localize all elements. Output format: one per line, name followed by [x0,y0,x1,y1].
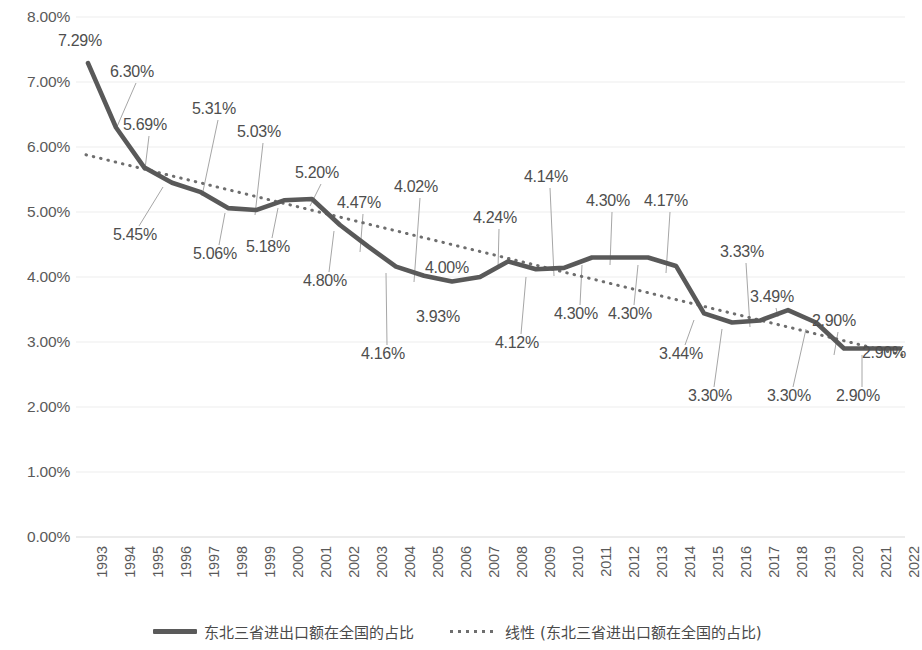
x-axis-tick-label: 2013 [654,546,670,578]
gridlines [76,17,905,537]
data-label-leader-line [219,213,225,245]
x-axis-tick-label: 2014 [682,546,698,578]
data-label: 4.30% [586,192,630,210]
data-label-leader-line [255,143,263,215]
data-label-leader-line [498,229,499,269]
dotted-line-swatch-icon [450,630,498,633]
x-axis-tick-label: 2019 [822,546,838,578]
data-label-leader-line [386,273,387,345]
legend-item-series[interactable]: 东北三省进出口额在全国的占比 [153,621,414,642]
x-axis-tick-label: 2003 [374,546,390,578]
x-axis-tick-label: 1993 [94,546,110,578]
data-label: 5.69% [123,116,167,134]
x-axis-tick-label: 2004 [402,546,418,578]
data-label-leader-line [329,231,334,272]
x-axis-tick-label: 2001 [318,546,334,578]
data-label: 2.90% [836,387,880,405]
data-label: 4.80% [303,272,347,290]
data-label: 5.18% [246,238,290,256]
data-label-leader-line [521,277,526,334]
x-axis-tick-label: 2020 [850,546,866,578]
x-axis-tick-label: 2011 [598,546,614,577]
x-axis-tick-label: 1999 [262,546,278,578]
data-label: 5.03% [237,123,281,141]
data-label: 5.20% [295,164,339,182]
legend-item-trendline[interactable]: 线性 (东北三省进出口额在全国的占比) [450,621,761,642]
data-label-leader-line [580,265,582,305]
data-label: 4.30% [608,305,652,323]
data-label: 4.47% [337,194,381,212]
x-axis-tick-label: 2021 [878,546,894,578]
data-label: 4.16% [361,345,405,363]
x-axis-tick-label: 2022 [906,546,922,578]
data-label: 4.02% [394,178,438,196]
x-axis-tick-label: 2010 [570,546,586,578]
solid-line-swatch-icon [153,629,197,634]
x-axis-tick-label: 1996 [178,546,194,578]
y-axis-tick-label: 3.00% [6,333,70,351]
data-label-leader-line [145,136,149,169]
data-label: 4.24% [473,209,517,227]
x-axis-tick-label: 2005 [430,546,446,578]
x-axis-tick-label: 2017 [766,546,782,578]
data-label: 4.12% [495,334,539,352]
data-label-leader-line [634,265,638,305]
y-axis: 8.00%7.00%6.00%5.00%4.00%3.00%2.00%1.00%… [0,0,70,560]
x-axis-tick-label: 2018 [794,546,810,578]
y-axis-tick-label: 7.00% [6,73,70,91]
x-axis-tick-label: 2008 [514,546,530,578]
data-label-leader-line [139,187,163,226]
data-label: 5.31% [192,100,236,118]
x-axis: 1993199419951996199719981999200020012002… [0,543,915,603]
data-label: 4.30% [554,305,598,323]
data-label-leader-line [360,214,363,252]
data-label: 4.00% [425,259,469,277]
x-axis-tick-label: 2002 [346,546,362,578]
x-axis-tick-label: 2016 [738,546,754,578]
data-label-leader-line [714,329,722,387]
x-axis-tick-label: 2015 [710,546,726,578]
data-label-leader-lines [116,83,862,387]
legend-label-trendline: 线性 (东北三省进出口额在全国的占比) [505,621,761,642]
data-label: 3.93% [416,308,460,326]
data-label: 3.30% [688,387,732,405]
data-label: 7.29% [58,32,102,50]
x-axis-tick-label: 1995 [150,546,166,578]
data-label: 3.44% [659,345,703,363]
data-label: 4.17% [644,192,688,210]
data-label: 3.30% [767,387,811,405]
data-label: 2.90% [862,344,906,362]
data-label: 3.49% [750,288,794,306]
x-axis-tick-label: 2007 [486,546,502,578]
data-label: 5.45% [113,226,157,244]
data-label-leader-line [793,329,806,387]
x-axis-tick-label: 1998 [234,546,250,578]
x-axis-tick-label: 2012 [626,546,642,578]
x-axis-tick-label: 2000 [290,546,306,578]
data-label: 5.06% [193,245,237,263]
data-label-leader-line [550,188,554,276]
y-axis-tick-label: 1.00% [6,463,70,481]
data-label: 6.30% [110,63,154,81]
chart-legend: 东北三省进出口额在全国的占比 线性 (东北三省进出口额在全国的占比) [0,612,915,650]
x-axis-tick-label: 2006 [458,546,474,578]
data-label: 4.14% [524,168,568,186]
legend-label-series: 东北三省进出口额在全国的占比 [204,621,414,642]
y-axis-tick-label: 8.00% [6,8,70,26]
data-label-leader-line [414,198,420,282]
data-label: 3.33% [720,243,764,261]
y-axis-tick-label: 4.00% [6,268,70,286]
x-axis-tick-label: 2009 [542,546,558,578]
y-axis-tick-label: 5.00% [6,203,70,221]
data-label: 2.90% [812,312,856,330]
data-label-leader-line [685,320,694,345]
x-axis-tick-label: 1994 [122,546,138,578]
y-axis-tick-label: 2.00% [6,398,70,416]
y-axis-tick-label: 6.00% [6,138,70,156]
x-axis-tick-label: 1997 [206,546,222,578]
